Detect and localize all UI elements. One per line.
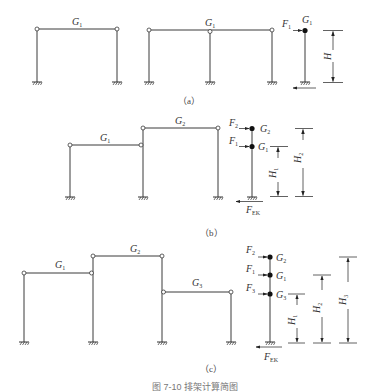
lumped-mass-icon [267, 272, 272, 277]
lumped-mass-icon [249, 144, 254, 149]
force-label: F3 [245, 282, 255, 294]
hinge-icon [115, 27, 119, 31]
mass-label: G2 [175, 115, 185, 127]
panel-b: G1 G2 F2 F1 G2 G1 FEK H1 [65, 115, 313, 238]
mass-label: G1 [302, 14, 312, 26]
base-shear-label: FEK [263, 351, 279, 363]
fixed-support-icon [88, 342, 98, 345]
fixed-support-icon [157, 342, 167, 345]
hinge-icon [229, 290, 233, 294]
hinge-icon [68, 143, 72, 147]
frame-b: G1 G2 [65, 115, 223, 200]
dimension-label: H1 [286, 315, 298, 326]
fixed-support-icon [265, 342, 275, 345]
force-label: F1 [281, 18, 291, 30]
dimension-label: H3 [337, 295, 349, 306]
panel-a: G1 G1 F1 G1 [32, 14, 343, 106]
hinge-icon [90, 271, 94, 275]
mass-label: G1 [205, 17, 215, 29]
hinge-icon [216, 126, 220, 130]
force-label: F2 [228, 117, 238, 129]
hinge-icon [91, 254, 95, 258]
force-label: F1 [245, 263, 255, 275]
hinge-icon [270, 28, 274, 32]
dimension-label: H2 [311, 303, 323, 314]
mass-label: G2 [260, 123, 270, 135]
mass-label: G3 [276, 289, 286, 301]
mass-label: G1 [100, 132, 110, 144]
lumped-mass-icon [249, 126, 254, 131]
mass-label: G2 [276, 252, 286, 264]
fixed-support-icon [205, 82, 215, 85]
dimension-label: H2 [292, 153, 304, 164]
mass-label: G1 [72, 16, 82, 28]
mass-label: G3 [192, 277, 202, 289]
frame-c: G1 G2 G3 [19, 243, 236, 345]
hinge-icon [22, 271, 26, 275]
dimension-label: H1 [267, 168, 279, 179]
mass-label: G1 [55, 259, 65, 271]
panel-caption: （b） [200, 228, 223, 238]
hinge-icon [139, 143, 143, 147]
stick-model-b: F2 F1 G2 G1 FEK H1 H2 [228, 117, 313, 216]
fixed-support-icon [112, 82, 122, 85]
fixed-support-icon [300, 82, 310, 85]
fixed-support-icon [19, 342, 29, 345]
dimension-label: H [322, 52, 333, 61]
lumped-mass-icon [267, 254, 272, 259]
hinge-icon [141, 126, 145, 130]
fixed-support-icon [32, 82, 42, 85]
fixed-support-icon [267, 82, 277, 85]
stick-model-c: F2 F1 F3 G2 G1 G3 FEK H1 H2 H3 [245, 244, 357, 363]
figure-caption: 图 7-10 排架计算简图 [152, 381, 238, 392]
force-label: F2 [245, 244, 255, 256]
hinge-icon [162, 290, 166, 294]
fixed-support-icon [226, 342, 236, 345]
fixed-support-icon [65, 197, 75, 200]
fixed-support-icon [247, 197, 257, 200]
hinge-icon [208, 30, 212, 34]
panel-caption: （c） [200, 364, 222, 374]
fixed-support-icon [138, 197, 148, 200]
hinge-icon [147, 28, 151, 32]
frame-a2: G1 [144, 17, 277, 85]
hinge-icon [35, 27, 39, 31]
base-shear-label: FEK [245, 204, 261, 216]
frame-a1: G1 [32, 16, 122, 85]
panel-c: G1 G2 G3 F2 F1 F3 G2 G1 G3 FEK H [19, 243, 357, 374]
mass-label: G2 [130, 243, 140, 255]
fixed-support-icon [213, 197, 223, 200]
bent-frame-diagram: G1 G1 F1 G1 [0, 0, 373, 392]
force-label: F1 [228, 135, 238, 147]
panel-caption: （a） [178, 96, 200, 106]
lumped-mass-icon [267, 291, 272, 296]
mass-label: G1 [276, 270, 286, 282]
mass-label: G1 [258, 141, 268, 153]
hinge-icon [160, 254, 164, 258]
lumped-mass-icon [302, 28, 307, 33]
fixed-support-icon [144, 82, 154, 85]
stick-model-a: F1 G1 H [281, 14, 343, 88]
